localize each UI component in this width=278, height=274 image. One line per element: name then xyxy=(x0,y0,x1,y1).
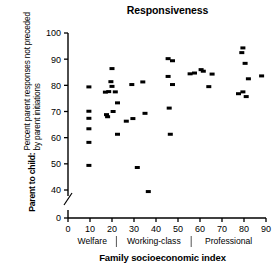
data-point xyxy=(143,112,148,115)
x-tick-label-70: 70 xyxy=(217,224,227,234)
y-tick-label-80: 80 xyxy=(51,81,61,91)
data-point xyxy=(210,73,215,76)
data-point xyxy=(168,133,173,136)
data-point xyxy=(113,90,118,93)
data-point xyxy=(106,90,111,93)
x-tick-label-80: 80 xyxy=(239,224,249,234)
data-point xyxy=(244,95,249,98)
data-point xyxy=(110,85,115,88)
group-label-welfare: Welfare xyxy=(77,236,107,246)
group-label-professional: Professional xyxy=(205,236,252,246)
x-tick-label-60: 60 xyxy=(195,224,205,234)
data-point xyxy=(86,110,91,113)
x-tick-label-20: 20 xyxy=(107,224,117,234)
x-tick-label-0: 0 xyxy=(65,224,70,234)
data-point xyxy=(86,117,91,120)
data-point xyxy=(192,72,197,75)
data-point xyxy=(124,120,129,123)
y-tick-label-50: 50 xyxy=(51,159,61,169)
data-point xyxy=(259,74,264,77)
y-tick-label-100: 100 xyxy=(46,28,61,38)
data-point xyxy=(111,110,116,113)
group-label-working-class: Working-class xyxy=(127,236,181,246)
x-tick-label-10: 10 xyxy=(85,224,95,234)
data-point xyxy=(246,77,251,80)
y-tick-label-70: 70 xyxy=(51,107,61,117)
data-point xyxy=(135,166,140,169)
x-tick-label-30: 30 xyxy=(129,224,139,234)
data-point xyxy=(105,115,110,118)
data-point xyxy=(130,117,135,120)
data-point xyxy=(239,51,244,54)
data-point xyxy=(146,190,151,193)
data-point xyxy=(240,90,245,93)
data-point xyxy=(166,75,171,78)
data-point xyxy=(86,85,91,88)
data-point xyxy=(86,164,91,167)
x-tick-label-50: 50 xyxy=(173,224,183,234)
data-point xyxy=(140,80,145,83)
x-axis-label: Family socioeconomic index xyxy=(50,252,275,263)
data-point xyxy=(236,92,241,95)
data-point xyxy=(110,67,115,70)
data-point xyxy=(115,101,120,104)
data-point xyxy=(167,107,172,110)
data-point xyxy=(170,83,175,86)
data-point xyxy=(243,62,248,65)
data-point xyxy=(115,133,120,136)
data-point xyxy=(108,80,113,83)
y-tick-label-90: 90 xyxy=(51,55,61,65)
data-point xyxy=(86,127,91,130)
y-tick-label-40: 40 xyxy=(51,185,61,195)
data-point xyxy=(188,72,193,75)
y-tick-label-0: 0 xyxy=(56,213,61,223)
data-point xyxy=(240,46,245,49)
chart-figure: Responsiveness Parent to child: Percent … xyxy=(0,0,278,274)
data-point xyxy=(166,57,171,60)
data-point xyxy=(170,59,175,62)
scatter-plot-canvas: 04050607080901000102030405060708090Welfa… xyxy=(0,0,278,274)
data-point xyxy=(129,83,134,86)
data-point xyxy=(206,85,211,88)
y-tick-label-60: 60 xyxy=(51,133,61,143)
data-point xyxy=(201,70,206,73)
x-tick-label-40: 40 xyxy=(151,224,161,234)
x-tick-label-90: 90 xyxy=(261,224,271,234)
data-point xyxy=(86,141,91,144)
